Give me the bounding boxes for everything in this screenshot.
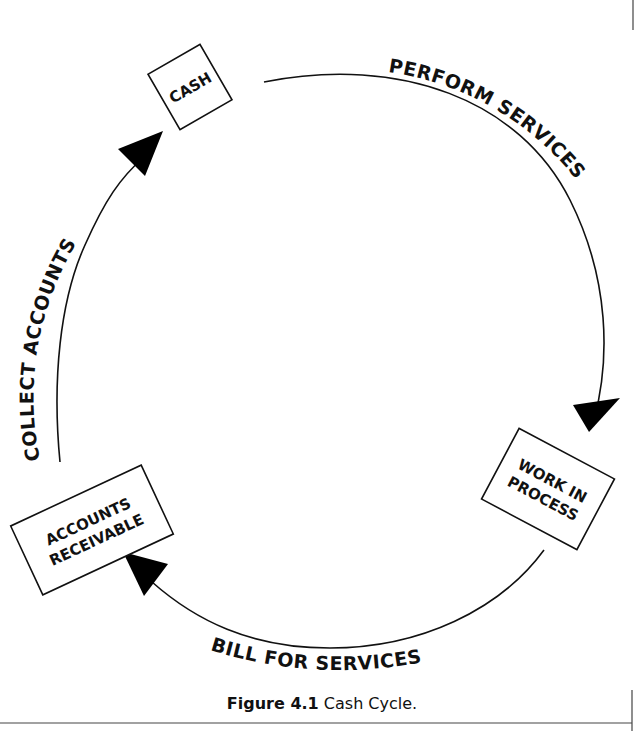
arrowhead-to-cash-icon: [118, 131, 163, 176]
cash-cycle-diagram: CASH WORK IN PROCESS ACCOUNTS RECEIVABLE…: [0, 0, 644, 731]
arrowhead-to-work-in-process-icon: [573, 398, 620, 432]
edge-label-bill-for-services: BILL FOR SERVICES: [209, 633, 423, 674]
edge-label-collect-accounts: COLLECT ACCOUNTS: [15, 234, 80, 464]
figure-caption-text: Cash Cycle.: [324, 694, 417, 713]
node-cash: CASH: [148, 44, 232, 129]
figure-caption: Figure 4.1 Cash Cycle.: [0, 694, 644, 713]
node-work-in-process: WORK IN PROCESS: [482, 428, 615, 549]
edge-label-perform-services: PERFORM SERVICES: [387, 54, 590, 182]
arc-collect-accounts: [57, 156, 145, 462]
arc-bill-for-services: [152, 550, 544, 648]
arc-perform-services: [264, 74, 604, 420]
figure-caption-label: Figure 4.1: [227, 694, 319, 713]
